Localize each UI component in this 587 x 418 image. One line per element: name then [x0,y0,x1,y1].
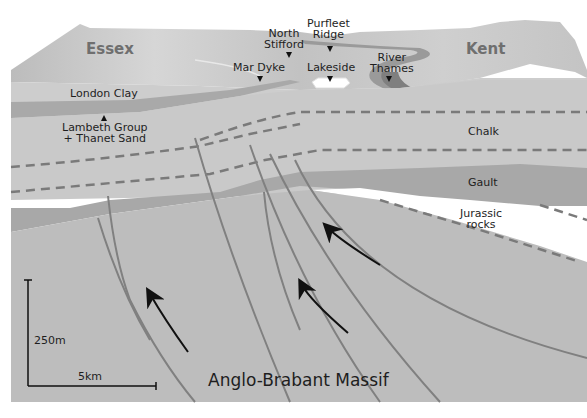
label-mar-dyke: Mar Dyke [233,62,285,73]
region-label-kent: Kent [466,40,505,58]
region-label-essex: Essex [86,40,134,58]
cross-section-diagram: Essex Kent NorthStifford PurfleetRidge M… [0,0,587,418]
label-gault: Gault [468,177,498,188]
scale-label-vertical: 250m [34,334,66,347]
label-lambeth-group: Lambeth Group+ Thanet Sand [62,122,148,144]
label-chalk: Chalk [468,126,499,137]
scale-label-horizontal: 5km [78,370,102,383]
label-river-thames: RiverThames [370,52,414,74]
label-purfleet-ridge: PurfleetRidge [307,18,350,40]
label-anglo-brabant-massif: Anglo-Brabant Massif [208,370,389,390]
label-london-clay: London Clay [70,88,138,99]
label-jurassic-rocks: Jurassicrocks [460,208,502,230]
label-lakeside: Lakeside [307,62,355,73]
label-north-stifford: NorthStifford [264,28,304,50]
